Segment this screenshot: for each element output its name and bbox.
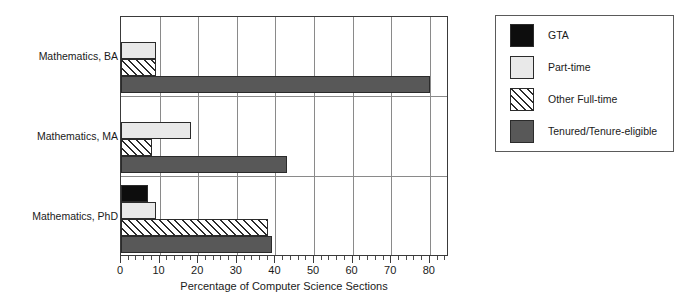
tick-minor	[421, 256, 422, 260]
tick-major-10	[159, 256, 160, 263]
tick-minor	[282, 256, 283, 260]
gridline-x-70	[391, 17, 392, 255]
bar-ma-part-time	[121, 122, 191, 139]
tick-minor	[128, 256, 129, 260]
tick-minor	[328, 256, 329, 260]
tick-minor	[359, 256, 360, 260]
tick-major-50	[313, 256, 314, 263]
tick-minor	[298, 256, 299, 260]
legend-label-part-time: Part-time	[548, 61, 591, 73]
y-axis-label-ma: Mathematics, MA	[4, 130, 118, 142]
tick-minor	[166, 256, 167, 260]
tick-minor	[143, 256, 144, 260]
tick-minor	[290, 256, 291, 260]
tick-minor	[251, 256, 252, 260]
group-separator-ma-phd	[121, 176, 447, 177]
tick-minor	[367, 256, 368, 260]
tick-minor	[375, 256, 376, 260]
x-tick-label-70: 70	[384, 264, 396, 277]
y-axis-label-ba: Mathematics, BA	[4, 50, 118, 62]
tick-major-80	[429, 256, 430, 263]
gridline-x-40	[275, 17, 276, 255]
x-tick-label-0: 0	[117, 264, 123, 277]
tick-minor	[267, 256, 268, 260]
x-tick-label-60: 60	[345, 264, 357, 277]
tick-minor	[182, 256, 183, 260]
legend-label-tenured: Tenured/Tenure-eligible	[548, 125, 657, 137]
tick-major-30	[236, 256, 237, 263]
tick-minor	[305, 256, 306, 260]
tick-minor	[213, 256, 214, 260]
tick-minor	[135, 256, 136, 260]
legend-swatch-gta	[510, 24, 534, 47]
tick-minor	[383, 256, 384, 260]
tick-major-70	[390, 256, 391, 263]
tick-minor	[205, 256, 206, 260]
gridline-x-80	[430, 17, 431, 255]
tick-major-0	[120, 256, 121, 263]
bar-chart: Mathematics, BA Mathematics, MA Mathemat…	[0, 0, 470, 301]
legend-label-other-full-time: Other Full-time	[548, 93, 617, 105]
legend-item-tenured: Tenured/Tenure-eligible	[510, 118, 657, 144]
bar-phd-tenured	[121, 236, 272, 253]
tick-minor	[344, 256, 345, 260]
tick-minor	[174, 256, 175, 260]
chart-legend: GTA Part-time Other Full-time Tenured/Te…	[495, 15, 674, 152]
plot-area	[120, 16, 448, 256]
tick-major-20	[197, 256, 198, 263]
y-axis-category-labels: Mathematics, BA Mathematics, MA Mathemat…	[0, 16, 118, 256]
bar-phd-other-full-time	[121, 219, 268, 236]
gridline-x-60	[353, 17, 354, 255]
group-separator-ba-ma	[121, 96, 447, 97]
legend-item-other-full-time: Other Full-time	[510, 86, 617, 112]
tick-minor	[406, 256, 407, 260]
tick-major-40	[274, 256, 275, 263]
tick-minor	[336, 256, 337, 260]
bar-ba-other-full-time	[121, 59, 156, 76]
legend-label-gta: GTA	[548, 29, 569, 41]
tick-minor	[228, 256, 229, 260]
tick-minor	[437, 256, 438, 260]
x-tick-label-40: 40	[268, 264, 280, 277]
x-tick-label-80: 80	[423, 264, 435, 277]
bar-phd-gta	[121, 185, 148, 202]
legend-item-part-time: Part-time	[510, 54, 591, 80]
x-axis-tick-labels: 0 10 20 30 40 50 60 70 80	[120, 264, 448, 278]
tick-minor	[190, 256, 191, 260]
x-tick-label-30: 30	[230, 264, 242, 277]
tick-minor	[321, 256, 322, 260]
tick-minor	[413, 256, 414, 260]
tick-minor	[444, 256, 445, 260]
legend-item-gta: GTA	[510, 22, 569, 48]
bar-ba-part-time	[121, 42, 156, 59]
tick-minor	[151, 256, 152, 260]
x-tick-label-50: 50	[307, 264, 319, 277]
x-axis-ticks	[120, 256, 448, 264]
legend-swatch-tenured	[510, 120, 534, 143]
tick-minor	[398, 256, 399, 260]
x-tick-label-10: 10	[152, 264, 164, 277]
legend-swatch-part-time	[510, 56, 534, 79]
x-axis-title: Percentage of Computer Science Sections	[120, 280, 448, 292]
bar-ba-tenured	[121, 76, 430, 93]
tick-minor	[259, 256, 260, 260]
bar-ma-tenured	[121, 156, 287, 173]
legend-swatch-other-full-time	[510, 88, 534, 111]
tick-minor	[244, 256, 245, 260]
tick-minor	[220, 256, 221, 260]
bar-ma-other-full-time	[121, 139, 152, 156]
x-tick-label-20: 20	[191, 264, 203, 277]
bar-phd-part-time	[121, 202, 156, 219]
tick-major-60	[352, 256, 353, 263]
gridline-x-50	[314, 17, 315, 255]
y-axis-label-phd: Mathematics, PhD	[4, 210, 118, 222]
